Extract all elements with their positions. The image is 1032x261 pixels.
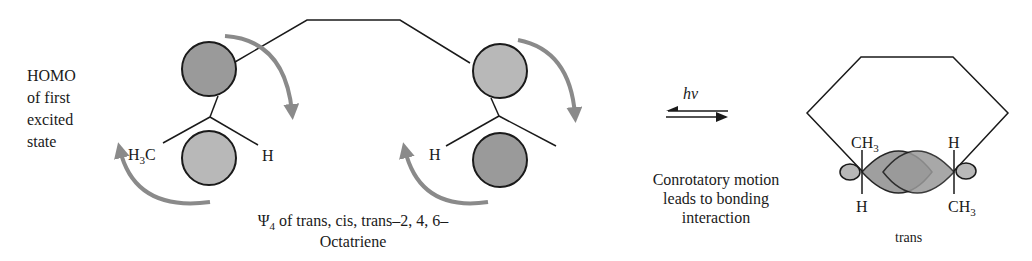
right-top-p-orbital [473, 44, 527, 98]
left-methyl-label: H3C [128, 145, 156, 164]
caption-line-1: Ψ4 of trans, cis, trans–2, 4, 6– [228, 210, 478, 232]
small-back-lobe-right [956, 163, 976, 179]
product-top-right-label: H [948, 133, 960, 152]
right-hydrogen-label: H [429, 145, 441, 164]
explanation-text: Conrotatory motion leads to bonding inte… [616, 170, 816, 227]
homo-label: HOMO of first excited state [27, 65, 76, 153]
right-bottom-p-orbital [473, 133, 527, 187]
caption-line-2: Octatriene [228, 232, 478, 251]
subscript: 3 [970, 206, 976, 218]
hv-label: hv [683, 84, 698, 103]
subscript: 3 [873, 142, 879, 154]
c-text: C [145, 146, 156, 163]
h-text: H [128, 146, 140, 163]
product-top-left-label: CH3 [851, 133, 879, 152]
ch-text: CH [948, 198, 970, 215]
explanation-line-2: leads to bonding [616, 189, 816, 208]
psi-symbol: Ψ [258, 212, 270, 229]
product-bottom-right-label: CH3 [948, 197, 976, 216]
orbital-diagram [0, 0, 1032, 261]
left-bottom-p-orbital [182, 131, 236, 185]
small-back-lobe-left [840, 164, 860, 180]
stereo-label: trans [895, 228, 922, 247]
explanation-line-3: interaction [616, 208, 816, 227]
homo-line-1: HOMO [27, 65, 76, 87]
product-ring [807, 57, 1008, 194]
left-hydrogen-label: H [262, 146, 274, 165]
explanation-line-1: Conrotatory motion [616, 170, 816, 189]
equilibrium-arrow [666, 106, 728, 122]
homo-line-4: state [27, 131, 76, 153]
caption-text: of trans, cis, trans–2, 4, 6– [275, 212, 448, 229]
ch-text: CH [851, 134, 873, 151]
homo-line-2: of first [27, 87, 76, 109]
right-molecule [405, 40, 575, 203]
homo-line-3: excited [27, 109, 76, 131]
left-top-p-orbital [182, 42, 236, 96]
product-bottom-left-label: H [856, 197, 868, 216]
